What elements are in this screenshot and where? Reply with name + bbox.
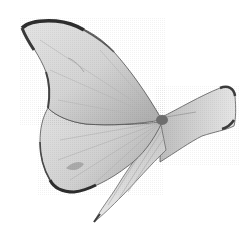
butterfly-illustration xyxy=(0,0,250,232)
photo-canvas xyxy=(0,0,250,232)
butterfly-body xyxy=(156,115,168,125)
fore-wing xyxy=(20,18,166,126)
right-wing xyxy=(155,85,240,165)
